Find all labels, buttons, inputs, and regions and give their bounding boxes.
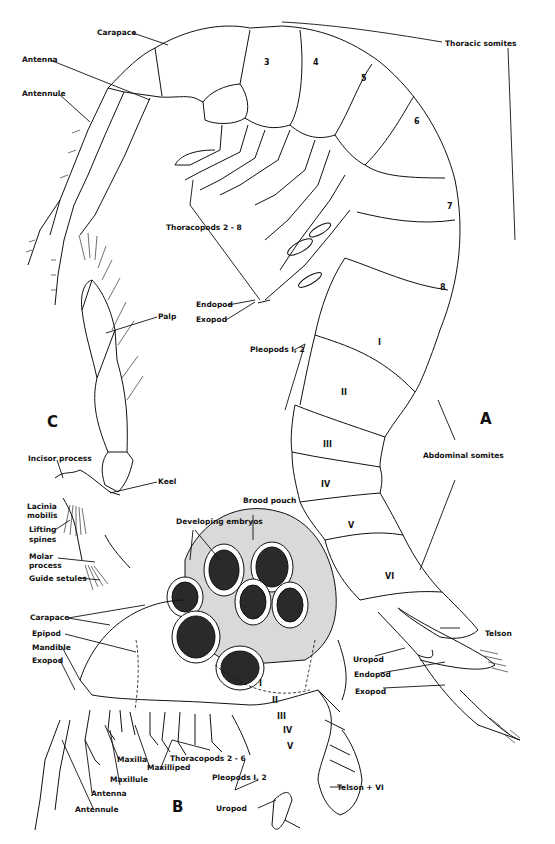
label-a-thoracic-somites: Thoracic somites (445, 40, 517, 48)
b-abdominal-somite-IV: IV (283, 727, 292, 735)
label-c-lacinia-mobilis-line1: Lacinia (27, 503, 57, 511)
abdominal-somite-VI: VI (385, 573, 394, 581)
label-c-molar-process-line2: process (29, 562, 62, 570)
label-b-epipod: Epipod (32, 630, 61, 638)
abdominal-somite-III: III (323, 441, 332, 449)
label-c-molar-process-line1: Molar (29, 553, 53, 561)
abdominal-somite-II: II (341, 389, 347, 397)
thoracic-somite-6: 6 (414, 118, 420, 126)
panel-a-thoracopods (175, 125, 350, 303)
b-abdominal-somite-I: I (259, 680, 262, 688)
thoracic-somite-4: 4 (313, 59, 319, 67)
panel-b-body (35, 509, 362, 830)
label-a-endopod: Endopod (196, 301, 233, 309)
label-b-antenna: Antenna (91, 790, 127, 798)
label-b-exopod: Exopod (32, 657, 63, 665)
label-a-exopod: Exopod (196, 316, 227, 324)
label-a-thoracopods: Thoracopods 2 - 8 (166, 224, 242, 232)
label-b-maxilla: Maxilla (117, 756, 147, 764)
panel-label-b: B (172, 800, 183, 815)
label-a-uropod-endopod: Endopod (354, 671, 391, 679)
panel-label-a: A (480, 412, 492, 427)
label-c-guide-setules: Guide setules (29, 575, 87, 583)
label-b-antennule: Antennule (75, 806, 119, 814)
label-b-maxillule: Maxillule (110, 776, 148, 784)
label-b-carapace: Carapace (30, 614, 69, 622)
label-a-uropod-exopod: Exopod (355, 688, 386, 696)
thoracic-somite-5: 5 (361, 75, 367, 83)
label-b-telson-vi: Telson + VI (337, 784, 384, 792)
panel-label-c: C (47, 415, 58, 430)
abdominal-somite-I: I (378, 339, 381, 347)
abdominal-somite-V: V (348, 522, 354, 530)
label-c-lifting-spines-line2: spines (29, 536, 56, 544)
label-a-antenna: Antenna (22, 56, 58, 64)
label-c-lacinia-mobilis-line2: mobilis (27, 512, 58, 520)
b-abdominal-somite-II: II (272, 697, 278, 705)
b-abdominal-somite-V: V (287, 743, 293, 751)
panel-c-mandible (55, 233, 143, 590)
panel-c-leader-lines (55, 317, 157, 580)
label-c-incisor-process: Incisor process (28, 455, 92, 463)
label-a-abdominal-somites: Abdominal somites (423, 452, 504, 460)
label-c-lifting-spines-line1: Lifting (29, 526, 56, 534)
label-a-telson: Telson (485, 630, 512, 638)
label-a-uropod: Uropod (353, 656, 384, 664)
label-b-maxilliped: Maxilliped (147, 764, 190, 772)
label-b-developing-embryos: Developing embryos (176, 518, 263, 526)
abdominal-somite-IV: IV (321, 481, 330, 489)
label-b-brood-pouch: Brood pouch (243, 497, 296, 505)
label-b-pleopods: Pleopods I, 2 (212, 774, 267, 782)
label-a-antennule: Antennule (22, 90, 66, 98)
label-c-keel: Keel (158, 478, 176, 486)
thoracic-somite-3: 3 (264, 59, 270, 67)
label-b-uropod: Uropod (216, 805, 247, 813)
thoracic-somite-8: 8 (440, 284, 446, 292)
b-abdominal-somite-III: III (277, 713, 286, 721)
thoracic-somite-7: 7 (447, 203, 453, 211)
label-a-carapace: Carapace (97, 29, 136, 37)
label-a-pleopods: Pleopods I, 2 (250, 346, 305, 354)
label-b-thoracopods: Thoracopods 2 - 6 (170, 755, 246, 763)
label-c-palp: Palp (158, 313, 176, 321)
label-b-mandible: Mandible (32, 644, 71, 652)
